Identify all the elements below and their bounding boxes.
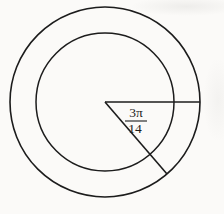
angle-diagram: 3π 14 (0, 0, 224, 214)
scanned-figure-page: 3π 14 (0, 0, 224, 214)
angle-label: 3π 14 (125, 105, 147, 136)
angle-label-denominator: 14 (128, 121, 142, 136)
angle-label-numerator: 3π (129, 105, 143, 120)
